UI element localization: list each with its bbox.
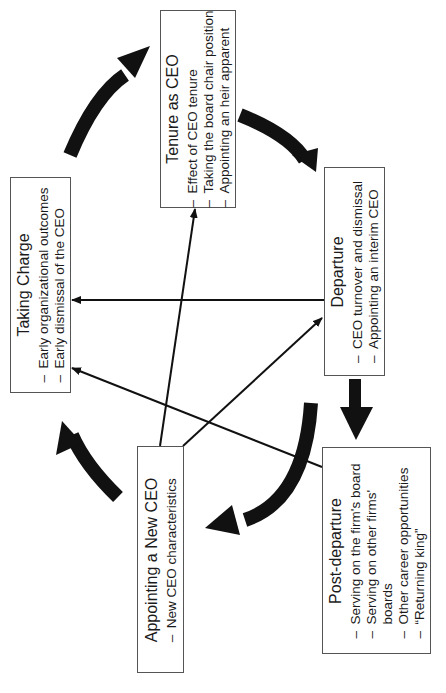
stage-item: –Taking the board chair position bbox=[201, 10, 217, 207]
connector-appointing-to-departure bbox=[183, 318, 322, 446]
bullet: – bbox=[163, 628, 179, 642]
stage-content: Tenure as CEO –Effect of CEO tenure –Tak… bbox=[164, 10, 233, 207]
stage-title: Appointing a New CEO bbox=[142, 477, 160, 642]
item-text: “Returning king” bbox=[411, 528, 426, 624]
bullet: – bbox=[349, 349, 365, 363]
stage-content: Appointing a New CEO –New CEO characteri… bbox=[142, 477, 179, 642]
stage-box-departure: Departure –CEO turnover and dismissal –A… bbox=[324, 167, 385, 376]
cycle-arrow-postdeparture-to-appointing bbox=[205, 403, 311, 535]
bullet: – bbox=[347, 624, 363, 638]
stage-content: Taking Charge –Early organizational outc… bbox=[14, 188, 67, 383]
item-text: Effect of CEO tenure bbox=[185, 69, 200, 193]
bullet: – bbox=[35, 368, 51, 382]
bullet: – bbox=[201, 194, 217, 208]
bullet: – bbox=[395, 624, 411, 638]
stage-item: –Serving on other firms' bbox=[363, 463, 379, 638]
cycle-arrow-tenure-to-departure bbox=[240, 115, 318, 172]
stage-content: Post-departure –Serving on the firm's bo… bbox=[326, 463, 427, 638]
stage-content: Departure –CEO turnover and dismissal –A… bbox=[328, 180, 381, 362]
item-text: Serving on other firms' bbox=[363, 489, 378, 624]
stage-item: –“Returning king” bbox=[411, 463, 427, 638]
item-text: Early dismissal of the CEO bbox=[51, 208, 66, 369]
stage-item: –Appointing an heir apparent bbox=[217, 10, 233, 207]
item-text: boards bbox=[379, 583, 394, 624]
item-text: CEO turnover and dismissal bbox=[349, 180, 364, 348]
stage-title: Departure bbox=[328, 180, 346, 362]
stage-title: Tenure as CEO bbox=[164, 10, 182, 207]
item-text: Serving on the firm's board bbox=[347, 463, 362, 624]
stage-box-taking-charge: Taking Charge –Early organizational outc… bbox=[10, 177, 71, 393]
stage-item: –Serving on the firm's board bbox=[347, 463, 363, 638]
cycle-arrow-taking-to-tenure bbox=[70, 46, 150, 155]
bullet: – bbox=[411, 624, 427, 638]
item-text: Other career opportunities bbox=[395, 467, 410, 624]
item-text: New CEO characteristics bbox=[163, 478, 178, 628]
item-text: Early organizational outcomes bbox=[35, 188, 50, 369]
stage-title: Post-departure bbox=[326, 463, 344, 638]
stage-item: –Effect of CEO tenure bbox=[185, 10, 201, 207]
cycle-arrow-appointing-to-taking bbox=[56, 421, 118, 497]
stage-item: –Other career opportunities bbox=[395, 463, 411, 638]
stage-item: –Early dismissal of the CEO bbox=[51, 188, 67, 383]
stage-box-tenure: Tenure as CEO –Effect of CEO tenure –Tak… bbox=[160, 10, 236, 208]
item-text: Appointing an interim CEO bbox=[365, 189, 380, 349]
bullet: – bbox=[363, 624, 379, 638]
bullet: – bbox=[51, 368, 67, 382]
item-text: Appointing an heir apparent bbox=[217, 28, 232, 194]
stage-item: –New CEO characteristics bbox=[163, 477, 179, 642]
connector-postdeparture-to-taking bbox=[72, 368, 322, 467]
stage-title: Taking Charge bbox=[14, 188, 32, 383]
bullet: – bbox=[217, 194, 233, 208]
stage-item: –CEO turnover and dismissal bbox=[349, 180, 365, 362]
bullet: – bbox=[185, 194, 201, 208]
cycle-arrow-departure-to-postdeparture bbox=[340, 379, 373, 440]
item-text: Taking the board chair position bbox=[201, 10, 216, 193]
stage-item: –Appointing an interim CEO bbox=[365, 180, 381, 362]
bullet: – bbox=[365, 349, 381, 363]
stage-item-continuation: boards bbox=[379, 463, 395, 638]
stage-item: –Early organizational outcomes bbox=[35, 188, 51, 383]
stage-box-post-departure: Post-departure –Serving on the firm's bo… bbox=[322, 447, 431, 654]
stage-box-appointing: Appointing a New CEO –New CEO characteri… bbox=[137, 446, 184, 673]
